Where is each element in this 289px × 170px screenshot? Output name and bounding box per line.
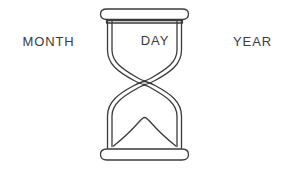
hourglass-inner-body-upper-right [144, 22, 177, 81]
hourglass-top-cap-rim [107, 21, 183, 24]
label-month: MONTH [0, 35, 97, 48]
label-day: DAY [120, 34, 190, 47]
hourglass-bottom-cap [101, 149, 189, 160]
hourglass-outer-body [108, 20, 182, 85]
hourglass-illustration [0, 0, 289, 170]
hourglass-sand-mound [114, 118, 176, 147]
hourglass-inner-body-lower [112, 85, 145, 146]
hourglass-outer-body-lower [108, 82, 182, 149]
hourglass-top-cap [101, 9, 189, 20]
hourglass-inner-body-lower-right [144, 85, 177, 146]
hourglass-inner-body-upper [112, 22, 145, 81]
label-year: YEAR [216, 35, 289, 48]
illustration-canvas: MONTH DAY YEAR [0, 0, 289, 170]
